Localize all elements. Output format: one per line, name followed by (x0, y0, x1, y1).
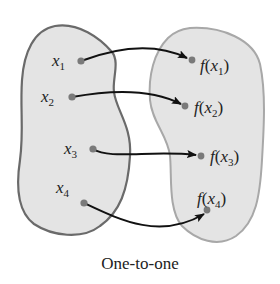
dot-fx2 (182, 103, 189, 110)
dot-x4 (80, 199, 87, 206)
dot-fx3 (198, 153, 205, 160)
one-to-one-diagram: x1 x2 x3 x4 f(x1) f(x2) f(x3) f(x4) One-… (0, 0, 280, 284)
domain-set-blob (18, 25, 130, 235)
label-fx1: f(x1) (200, 56, 229, 77)
diagram-caption: One-to-one (101, 254, 178, 273)
dot-fx1 (189, 57, 196, 64)
dot-x3 (89, 145, 96, 152)
dot-x1 (77, 57, 84, 64)
label-fx4: f(x4) (197, 189, 226, 210)
label-fx2: f(x2) (194, 98, 223, 119)
label-fx3: f(x3) (210, 147, 239, 168)
dot-x2 (68, 93, 75, 100)
